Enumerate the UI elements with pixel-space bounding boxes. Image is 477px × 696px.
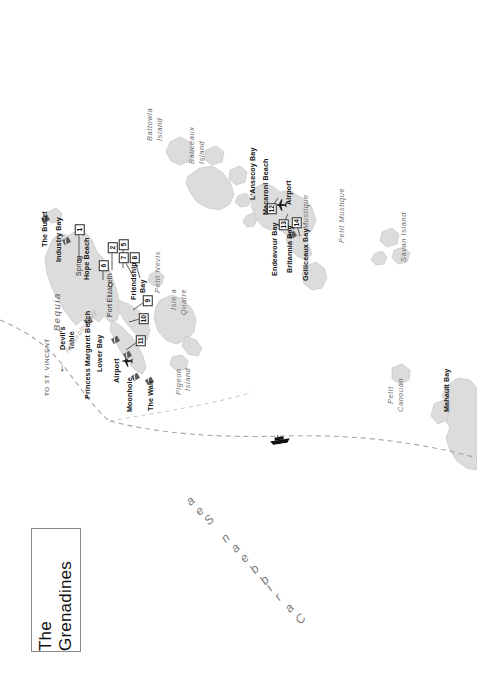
map-title: The Grenadines [32, 529, 80, 651]
sea-char: C [292, 611, 308, 627]
map-title-box: The Grenadines [31, 528, 81, 652]
map-canvas: 1 2 5 6 7 8 9 10 11 12 13 14 The Bullet … [0, 0, 477, 696]
